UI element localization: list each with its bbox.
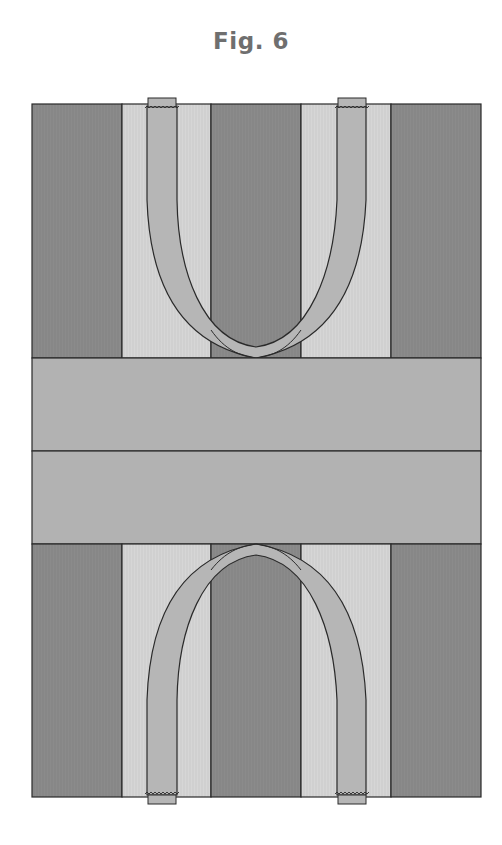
- strap-tab: [338, 795, 366, 804]
- bottom-strips: [32, 544, 481, 797]
- middle-bands: [32, 358, 481, 544]
- top-strips: [32, 104, 481, 358]
- quilt-diagram: [0, 0, 502, 845]
- strap-tab: [338, 98, 366, 107]
- band-lower: [32, 451, 481, 544]
- band-upper: [32, 358, 481, 451]
- strap-tab: [148, 795, 176, 804]
- strap-tab: [148, 98, 176, 107]
